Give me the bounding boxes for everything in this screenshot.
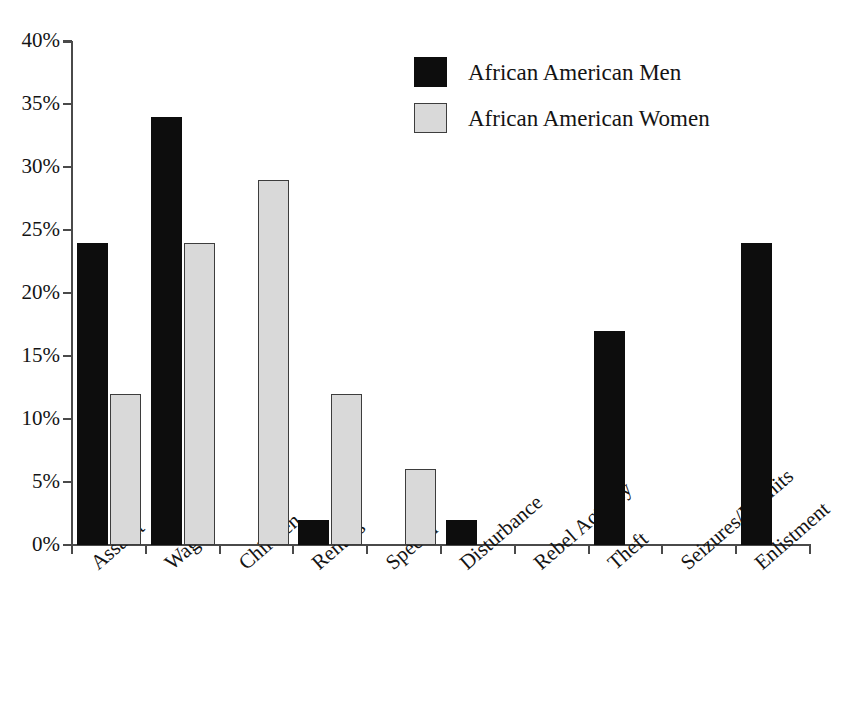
x-axis-tick (809, 545, 811, 554)
legend-item-men: African American Men (414, 52, 710, 92)
x-axis-tick (292, 545, 294, 554)
legend-swatch-women (414, 103, 447, 133)
bar-assault-men (77, 243, 108, 545)
x-axis-tick (588, 545, 590, 554)
y-axis-tick (63, 229, 72, 231)
y-axis-tick-label: 15% (2, 345, 60, 366)
bar-wages-men (151, 117, 182, 545)
legend-swatch-men (414, 57, 447, 87)
legend-item-women: African American Women (414, 98, 710, 138)
x-axis-tick (366, 545, 368, 554)
y-axis-tick-label: 5% (2, 471, 60, 492)
y-axis-tick-label: 0% (2, 534, 60, 555)
y-axis-tick (63, 418, 72, 420)
bar-speech-women (405, 469, 436, 545)
bar-chart: 0%5%10%15%20%25%30%35%40% AssaultWagesCh… (0, 0, 845, 715)
bar-rentals-men (298, 520, 329, 545)
y-axis-tick (63, 355, 72, 357)
y-axis-tick-label: 10% (2, 408, 60, 429)
legend-label-women: African American Women (468, 107, 710, 130)
y-axis-tick-label: 20% (2, 282, 60, 303)
bar-assault-women (110, 394, 141, 545)
x-axis-tick (514, 545, 516, 554)
y-axis-tick-label: 40% (2, 30, 60, 51)
bar-children-women (258, 180, 289, 545)
x-axis-tick (145, 545, 147, 554)
x-axis-tick (661, 545, 663, 554)
y-axis-tick (63, 292, 72, 294)
bar-disturbance-men (446, 520, 477, 545)
legend-label-men: African American Men (468, 61, 681, 84)
bar-enlistment-men (741, 243, 772, 545)
y-axis-tick (63, 481, 72, 483)
bar-rentals-women (331, 394, 362, 545)
y-axis-tick (63, 40, 72, 42)
y-axis-tick (63, 166, 72, 168)
y-axis-tick-label: 25% (2, 219, 60, 240)
x-axis-tick (71, 545, 73, 554)
y-axis-tick-label: 35% (2, 93, 60, 114)
y-axis-tick-label: 30% (2, 156, 60, 177)
x-axis-tick (219, 545, 221, 554)
bar-theft-men (594, 331, 625, 545)
chart-legend: African American MenAfrican American Wom… (414, 52, 710, 144)
x-axis-tick (440, 545, 442, 554)
x-axis-tick (735, 545, 737, 554)
y-axis-tick (63, 103, 72, 105)
bar-wages-women (184, 243, 215, 545)
